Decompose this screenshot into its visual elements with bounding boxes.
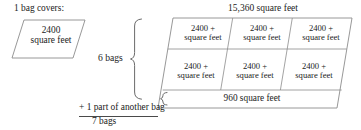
total-area-title: 15,360 square feet [198,4,328,14]
one-bag-caption: 1 bag covers: [14,4,64,14]
area-cell: 2400 + square feet [234,24,290,42]
partial-bag-label: + 1 part of another bag [79,103,165,113]
single-bag-value: 2400 square feet [27,26,75,46]
area-cell-line2: square feet [175,33,231,42]
area-cell: 2400 + square feet [286,62,342,80]
area-cell: 2400 + square feet [227,62,283,80]
sum-rule [79,116,158,117]
area-cell: 2400 + square feet [168,62,224,80]
area-cell: 2400 + square feet [175,24,231,42]
area-cell-line2: square feet [286,71,342,80]
total-bags-label: 7 bags [92,117,116,127]
area-cell-line2: square feet [234,33,290,42]
area-cell: 2400 + square feet [293,24,349,42]
six-bags-label: 6 bags [98,53,123,63]
area-cell-line2: square feet [168,71,224,80]
area-cell-line2: square feet [293,33,349,42]
area-cell-line2: square feet [227,71,283,80]
single-bag-value-line2: square feet [27,36,75,46]
single-bag-value-line1: 2400 [42,25,61,35]
remainder-area-label: 960 square feet [203,94,301,104]
six-bags-brace [131,19,142,99]
diagram-canvas: 1 bag covers: 2400 square feet 6 bags + … [0,0,361,130]
